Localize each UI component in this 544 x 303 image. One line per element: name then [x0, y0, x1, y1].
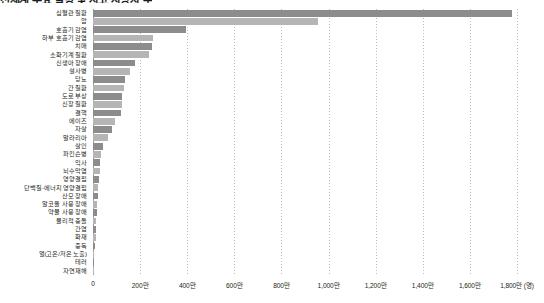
category-label: 열(고온/저온 노출): [39, 251, 87, 257]
axis-tick-label: 1,000만: [318, 280, 340, 290]
bar-row: [93, 34, 517, 42]
bar: [93, 85, 124, 92]
category-label: 단백질-에너지 영양결핍: [24, 185, 87, 191]
bar: [93, 35, 153, 42]
bar: [93, 134, 108, 141]
bar: [93, 176, 99, 183]
axis-tick-label: 1,600만: [459, 280, 481, 290]
bar-row: [93, 200, 517, 208]
category-label: 파킨슨병: [63, 151, 87, 157]
page-title: 전세계 주요 질병 및 사고 사망자 수: [0, 0, 152, 3]
bar-row: [93, 109, 517, 117]
bar: [93, 184, 98, 191]
bar: [93, 259, 94, 266]
category-label: 신생아 장애: [56, 60, 87, 66]
axis-tick-label: 600만: [226, 280, 243, 290]
bar-row: [93, 159, 517, 167]
bar: [93, 43, 152, 50]
bar-row: [93, 242, 517, 250]
bar-series: [93, 9, 517, 275]
category-label: 결핵: [75, 110, 87, 116]
category-label: 뇌수막염: [63, 168, 87, 174]
bar-row: [93, 267, 517, 275]
gridline: [517, 9, 518, 275]
bar: [93, 193, 98, 200]
plot-area: [93, 9, 517, 275]
category-label: 하부 호흡기 감염: [42, 35, 87, 41]
bar: [93, 209, 97, 216]
bar-row: [93, 42, 517, 50]
bar-row: [93, 250, 517, 258]
category-label: 영양결핍: [63, 176, 87, 182]
axis-tick-label: 1,200만: [365, 280, 387, 290]
axis-tick-label: 0: [91, 280, 95, 287]
bar-row: [93, 134, 517, 142]
bar: [93, 126, 112, 133]
bar-row: [93, 76, 517, 84]
bar-row: [93, 167, 517, 175]
category-label: 익사: [75, 160, 87, 166]
category-label: 소화기계 질환: [50, 52, 87, 58]
bar-row: [93, 184, 517, 192]
category-label: 자연재해: [63, 268, 87, 274]
bar: [93, 101, 122, 108]
bar: [93, 226, 96, 233]
category-label: 호흡기 감염: [56, 27, 87, 33]
bar: [93, 93, 122, 100]
bar-chart: 전세계 주요 질병 및 사고 사망자 수 심혈관 질환암호흡기 감염하부 호흡기…: [0, 0, 544, 303]
bar-row: [93, 59, 517, 67]
bar-row: [93, 92, 517, 100]
category-label: 심혈관 질환: [56, 10, 87, 16]
category-label: 약물 사용 장애: [48, 209, 87, 215]
category-label: 치매: [75, 43, 87, 49]
bar: [93, 18, 318, 25]
category-label: 신장 질환: [62, 101, 87, 107]
bar-row: [93, 100, 517, 108]
bar-row: [93, 209, 517, 217]
bar: [93, 76, 125, 83]
bar: [93, 118, 115, 125]
bar: [93, 243, 95, 250]
bar: [93, 110, 121, 117]
bar-row: [93, 192, 517, 200]
category-label: 말라리아: [63, 135, 87, 141]
category-label: 화재: [75, 234, 87, 240]
axis-tick-label: 400만: [179, 280, 196, 290]
bar-row: [93, 17, 517, 25]
bar: [93, 68, 130, 75]
category-label: 테러: [75, 259, 87, 265]
value-axis: 0200만400만600만800만1,000만1,200만1,400만1,600…: [0, 280, 544, 296]
axis-tick-label: 1,800만 (명): [500, 280, 534, 290]
category-label: 간 질환: [68, 85, 87, 91]
category-label: 자살: [75, 126, 87, 132]
category-label: 살인: [75, 143, 87, 149]
bar: [93, 10, 512, 17]
category-label: 중독: [75, 243, 87, 249]
bar-row: [93, 225, 517, 233]
bar-row: [93, 142, 517, 150]
bar-row: [93, 51, 517, 59]
bar: [93, 218, 96, 225]
bar-row: [93, 117, 517, 125]
bar-row: [93, 150, 517, 158]
bar: [93, 26, 186, 33]
bar-row: [93, 84, 517, 92]
category-label: 당뇨: [75, 76, 87, 82]
category-label: 암: [81, 18, 87, 24]
bar: [93, 159, 100, 166]
category-label: 간염: [75, 226, 87, 232]
bar: [93, 151, 101, 158]
category-label: 알코올 사용 장애: [42, 201, 87, 207]
axis-tick-label: 800만: [273, 280, 290, 290]
bar-row: [93, 217, 517, 225]
bar: [93, 51, 149, 58]
category-label: 에이즈: [69, 118, 87, 124]
bar-row: [93, 9, 517, 17]
bar-row: [93, 175, 517, 183]
bar: [93, 168, 100, 175]
category-label: 산모 장애: [62, 193, 87, 199]
bar: [93, 143, 103, 150]
axis-tick-label: 1,400만: [412, 280, 434, 290]
bar: [93, 201, 97, 208]
bar: [93, 234, 96, 241]
